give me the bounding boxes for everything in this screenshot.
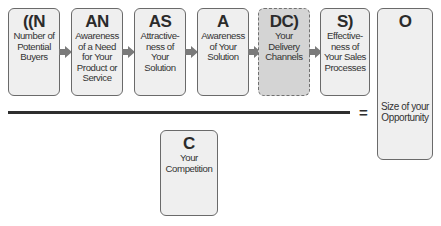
factor-desc: Awarenessof a Needfor YourProduct orServ… xyxy=(72,31,122,84)
factor-desc: YourDeliveryChannels xyxy=(259,31,309,63)
factor-code: AN xyxy=(72,12,122,31)
factor-code: A xyxy=(198,12,248,31)
result-code: O xyxy=(378,12,432,31)
factor-box-awareness-of-need: AN Awarenessof a Needfor YourProduct orS… xyxy=(71,8,123,96)
denominator-desc: YourCompetition xyxy=(161,153,217,174)
factor-code: DC) xyxy=(259,12,309,31)
factor-code: S) xyxy=(321,12,369,31)
factor-desc: Attractive-ness ofYourSolution xyxy=(135,31,185,73)
equals-sign: = xyxy=(359,104,368,121)
result-box-opportunity: O Size of yourOpportunity xyxy=(377,8,433,160)
factor-desc: Effective-ness ofYour SalesProcesses xyxy=(321,31,369,73)
factor-box-sales-processes: S) Effective-ness ofYour SalesProcesses xyxy=(320,8,370,96)
fraction-divider xyxy=(8,111,350,114)
factor-box-attractiveness: AS Attractive-ness ofYourSolution xyxy=(134,8,186,96)
denominator-box-competition: C YourCompetition xyxy=(160,130,218,216)
factor-box-delivery-channels: DC) YourDeliveryChannels xyxy=(258,8,310,96)
factor-box-awareness-of-solution: A Awarenessof YourSolution xyxy=(197,8,249,96)
result-desc: Size of yourOpportunity xyxy=(378,101,432,123)
denominator-code: C xyxy=(161,134,217,153)
factor-box-potential-buyers: ((N Number ofPotentialBuyers xyxy=(8,8,60,96)
factor-desc: Number ofPotentialBuyers xyxy=(9,31,59,63)
factor-code: AS xyxy=(135,12,185,31)
factor-code: ((N xyxy=(9,12,59,31)
factor-desc: Awarenessof YourSolution xyxy=(198,31,248,63)
